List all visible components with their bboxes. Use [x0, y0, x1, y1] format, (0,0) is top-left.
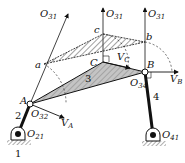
label-va: VA — [61, 117, 73, 130]
label-o21: O21 — [27, 128, 44, 141]
joint-a — [27, 101, 33, 107]
label-o31-mid: O31 — [106, 8, 123, 21]
label-vc: VC — [117, 51, 130, 64]
label-c-small: c — [94, 24, 100, 35]
label-link-3: 3 — [85, 73, 91, 84]
label-o41: O41 — [162, 129, 179, 142]
label-vb: VB — [170, 73, 182, 86]
label-o31-right: O31 — [148, 8, 165, 21]
mechanism-diagram: O31 O31 O31 a c b C B A VC VB VA O32 O34… — [0, 0, 185, 163]
label-b-small: b — [146, 31, 152, 42]
label-o32: O32 — [31, 108, 49, 121]
label-b-point: B — [146, 59, 154, 70]
label-a-point: A — [19, 95, 27, 106]
label-a-small: a — [35, 59, 41, 70]
right-angle-c — [103, 56, 109, 62]
label-c-point: C — [90, 57, 98, 68]
label-link-4: 4 — [153, 91, 159, 102]
label-o31-left: O31 — [40, 8, 57, 21]
label-link-2: 2 — [15, 110, 21, 121]
label-link-1: 1 — [15, 148, 21, 159]
